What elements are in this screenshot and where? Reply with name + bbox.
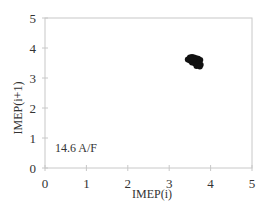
x-tick-label: 0 — [42, 176, 49, 191]
x-tick-label: 4 — [207, 176, 214, 191]
x-tick-label: 1 — [83, 176, 90, 191]
y-tick-label: 2 — [30, 101, 37, 116]
y-tick-label: 3 — [30, 71, 37, 86]
annotation-label: 14.6 A/F — [55, 141, 97, 155]
y-tick-label: 4 — [30, 41, 37, 56]
scatter-chart: 012345012345 14.6 A/F IMEP(i) IMEP(i+1) — [0, 0, 272, 216]
x-tick-label: 2 — [125, 176, 132, 191]
data-point — [188, 56, 194, 62]
x-tick-label: 5 — [249, 176, 256, 191]
y-tick-label: 0 — [30, 161, 37, 176]
axis-ticks: 012345012345 — [30, 11, 256, 192]
y-tick-label: 5 — [30, 11, 37, 26]
data-point — [197, 64, 203, 70]
x-axis-title: IMEP(i) — [132, 187, 172, 201]
data-points — [185, 54, 204, 70]
y-tick-label: 1 — [30, 131, 37, 146]
y-axis-title: IMEP(i+1) — [11, 82, 25, 135]
